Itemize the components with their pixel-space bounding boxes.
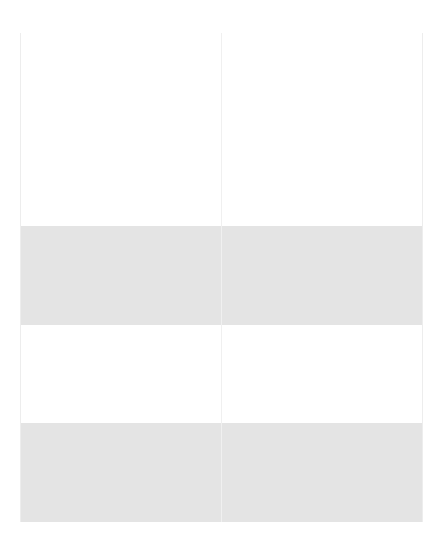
table-cell-text — [222, 226, 422, 235]
table-cell-text — [21, 33, 221, 42]
table-cell-text — [21, 226, 221, 235]
table-row[interactable] — [21, 132, 423, 226]
data-table — [20, 33, 423, 522]
table-cell-text — [222, 132, 422, 141]
table-cell-text — [21, 132, 221, 141]
table-cell-text — [222, 423, 422, 432]
table-cell[interactable] — [21, 33, 222, 132]
table-cell-text — [222, 33, 422, 42]
table-cell[interactable] — [222, 226, 423, 325]
table-cell-text — [21, 325, 221, 334]
table-body — [21, 33, 423, 522]
table-cell[interactable] — [222, 325, 423, 423]
table-cell[interactable] — [21, 226, 222, 325]
table-row[interactable] — [21, 226, 423, 325]
table-cell-text — [21, 423, 221, 432]
document-page — [0, 0, 442, 559]
table-cell[interactable] — [21, 423, 222, 522]
table-row[interactable] — [21, 423, 423, 522]
table-cell-text — [222, 325, 422, 334]
table-cell[interactable] — [222, 33, 423, 132]
table-cell[interactable] — [222, 423, 423, 522]
table-cell[interactable] — [21, 132, 222, 226]
table-row[interactable] — [21, 33, 423, 132]
table-cell[interactable] — [222, 132, 423, 226]
table-cell[interactable] — [21, 325, 222, 423]
table-row[interactable] — [21, 325, 423, 423]
